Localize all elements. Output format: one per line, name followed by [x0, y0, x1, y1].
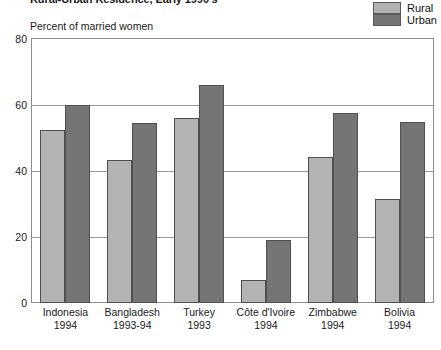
x-tick-year: 1993-94: [99, 319, 166, 332]
x-tick-label: Turkey1993: [166, 306, 233, 332]
bar-rural: [40, 130, 65, 303]
x-tick-country: Côte d'Ivoire: [237, 306, 296, 318]
y-tick-40: 40: [3, 166, 27, 176]
legend-item-rural: Rural: [373, 2, 437, 14]
bar-urban: [132, 123, 157, 303]
bar-group: [241, 39, 291, 303]
x-tick-label: Côte d'Ivoire1994: [233, 306, 300, 332]
x-tick-label: Indonesia1994: [32, 306, 99, 332]
x-tick-label: Zimbabwe1994: [299, 306, 366, 332]
bar-rural: [107, 160, 132, 303]
legend-swatch-urban: [373, 14, 401, 26]
bar-group: [308, 39, 358, 303]
bar-rural: [174, 118, 199, 303]
bar-urban: [266, 240, 291, 303]
x-tick-country: Turkey: [183, 306, 215, 318]
bar-urban: [65, 105, 90, 303]
x-tick-year: 1994: [32, 319, 99, 332]
bar-group: [174, 39, 224, 303]
y-tick-60: 60: [3, 100, 27, 110]
legend-swatch-rural: [373, 2, 401, 14]
x-tick-label: Bolivia1994: [366, 306, 433, 332]
bar-group: [375, 39, 425, 303]
bar-urban: [400, 122, 425, 304]
x-tick-country: Indonesia: [43, 306, 89, 318]
legend-label-rural: Rural: [407, 2, 433, 14]
bar-rural: [375, 199, 400, 303]
bar-group: [107, 39, 157, 303]
x-tick-year: 1994: [233, 319, 300, 332]
legend-item-urban: Urban: [373, 14, 437, 26]
chart-legend: Rural Urban: [373, 2, 437, 26]
chart-title: Rural-Urban Residence, Early 1990's: [30, 0, 217, 5]
bar-urban: [333, 113, 358, 303]
y-tick-20: 20: [3, 232, 27, 242]
y-axis-caption: Percent of married women: [30, 20, 153, 32]
x-tick-year: 1993: [166, 319, 233, 332]
x-tick-label: Bangladesh1993-94: [99, 306, 166, 332]
y-tick-0: 0: [3, 298, 27, 308]
bar-rural: [241, 280, 266, 303]
x-tick-country: Bolivia: [384, 306, 415, 318]
legend-label-urban: Urban: [407, 14, 437, 26]
bar-group: [40, 39, 90, 303]
x-axis-tick-labels: Indonesia1994Bangladesh1993-94Turkey1993…: [32, 306, 433, 346]
x-tick-country: Zimbabwe: [309, 306, 357, 318]
bar-series-container: [32, 39, 433, 303]
x-tick-year: 1994: [366, 319, 433, 332]
bar-urban: [199, 85, 224, 303]
y-tick-80: 80: [3, 34, 27, 44]
x-tick-year: 1994: [299, 319, 366, 332]
x-tick-country: Bangladesh: [105, 306, 160, 318]
bar-rural: [308, 157, 333, 303]
